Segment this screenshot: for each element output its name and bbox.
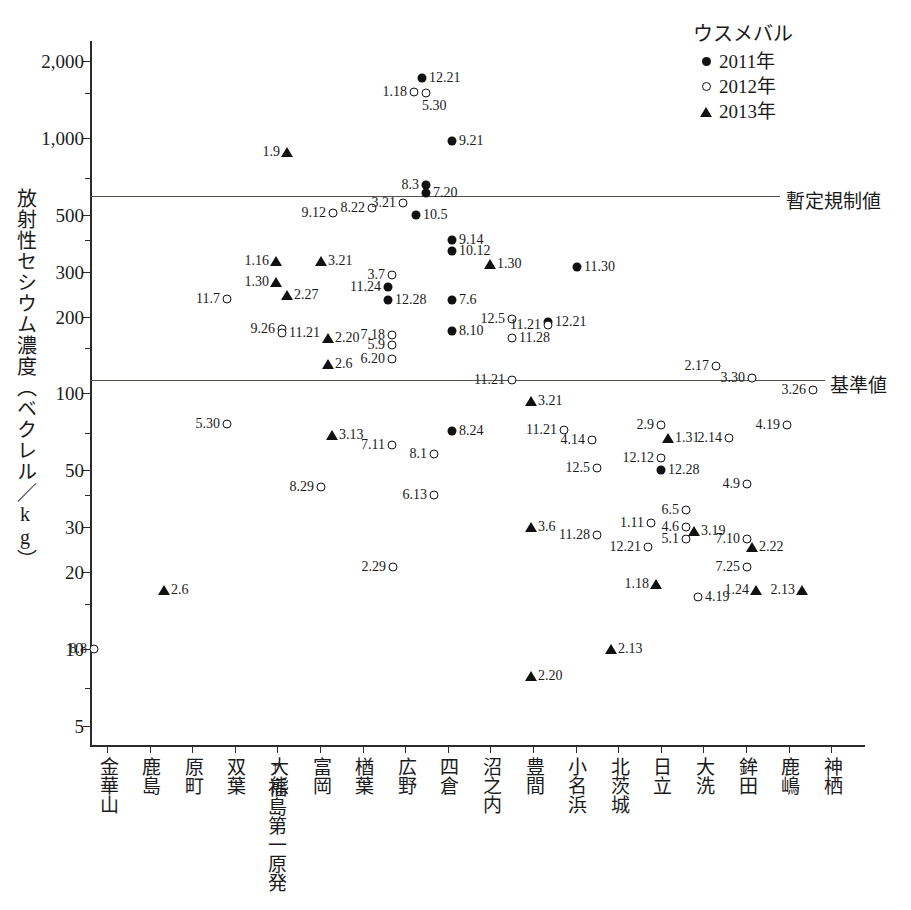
data-point-2012 (430, 491, 439, 500)
data-point-label: 8.8 (70, 642, 88, 656)
fukushima-daiichi-annotation: ↑福島第一原発 (265, 757, 286, 892)
data-point-2011 (448, 326, 457, 335)
data-point-2012 (544, 321, 553, 330)
data-point-2012 (657, 453, 666, 462)
data-point-2012 (588, 435, 597, 444)
data-point-label: 12.21 (610, 540, 642, 554)
data-point-2011 (448, 136, 457, 145)
y-minor-tick (85, 688, 90, 689)
data-point-label: 2.20 (335, 331, 360, 345)
data-point-2013 (281, 147, 293, 157)
data-point-label: 1.16 (245, 254, 270, 268)
x-tick (576, 745, 577, 753)
x-tick (831, 745, 832, 753)
data-point-label: 1.24 (725, 583, 750, 597)
y-tick-label: 20 (0, 563, 84, 582)
x-tick (618, 745, 619, 753)
y-tick (83, 138, 90, 139)
data-point-label: 1.18 (383, 85, 408, 99)
legend-entry-2011年: 2011年 (693, 49, 793, 74)
x-category-label-神栖: 神栖 (821, 757, 842, 795)
y-tick-label: 50 (0, 461, 84, 480)
data-point-2012 (410, 87, 419, 96)
data-point-label: 2.14 (698, 431, 723, 445)
data-point-2012 (388, 271, 397, 280)
x-tick (192, 745, 193, 753)
data-point-label: 2.13 (771, 583, 796, 597)
data-point-label: 1.30 (245, 275, 270, 289)
y-tick (83, 726, 90, 727)
data-point-label: 8.10 (459, 324, 484, 338)
data-point-2013 (525, 522, 537, 532)
data-point-label: 2.17 (685, 359, 710, 373)
x-category-label-大洗: 大洗 (693, 757, 714, 795)
y-minor-tick (85, 178, 90, 179)
x-category-label-広野: 広野 (395, 757, 416, 795)
data-point-2011 (573, 262, 582, 271)
data-point-2013 (322, 359, 334, 369)
data-point-2013 (326, 430, 338, 440)
x-category-label-鹿嶋: 鹿嶋 (779, 757, 800, 795)
data-point-label: 2.6 (171, 583, 189, 597)
data-point-label: 5.1 (662, 532, 680, 546)
x-tick (661, 745, 662, 753)
data-point-label: 2.29 (362, 560, 387, 574)
legend-title: ウスメバル (693, 22, 793, 47)
data-point-label: 11.30 (584, 260, 615, 274)
data-point-2012 (430, 449, 439, 458)
reference-line-standard-label: 基準値 (830, 370, 887, 397)
data-point-2013 (662, 433, 674, 443)
y-minor-tick (85, 240, 90, 241)
data-point-label: 3.30 (721, 371, 746, 385)
data-point-label: 3.26 (782, 383, 807, 397)
data-point-2012 (748, 373, 757, 382)
x-tick (277, 745, 278, 753)
x-category-label-沼之内: 沼之内 (480, 757, 501, 814)
y-tick (83, 470, 90, 471)
data-point-2012 (593, 464, 602, 473)
data-point-label: 7.10 (716, 532, 741, 546)
data-point-2012 (508, 375, 517, 384)
data-point-label: 10.5 (423, 208, 448, 222)
x-tick (490, 745, 491, 753)
legend-entry-2013年: 2013年 (693, 99, 793, 124)
data-point-2013 (650, 579, 662, 589)
data-point-label: 12.28 (395, 293, 427, 307)
data-point-2012 (329, 208, 338, 217)
y-minor-tick (85, 433, 90, 434)
data-point-label: 7.6 (459, 293, 477, 307)
data-point-label: 3.6 (538, 520, 556, 534)
data-point-2013 (315, 256, 327, 266)
y-tick (83, 572, 90, 573)
y-axis-line (90, 41, 92, 746)
data-point-2013 (158, 585, 170, 595)
data-point-label: 1.31 (675, 431, 700, 445)
data-point-label: 1.9 (263, 145, 281, 159)
data-point-2012 (682, 505, 691, 514)
y-tick (83, 393, 90, 394)
y-tick (83, 272, 90, 273)
data-point-label: 8.1 (410, 447, 428, 461)
data-point-label: 11.28 (519, 331, 550, 345)
data-point-label: 12.12 (623, 451, 655, 465)
data-point-2011 (657, 466, 666, 475)
y-tick-label: 2,000 (0, 52, 84, 71)
legend-entry-label: 2013年 (719, 99, 776, 124)
y-tick-label: 30 (0, 518, 84, 537)
data-point-2012 (317, 483, 326, 492)
y-tick (83, 317, 90, 318)
data-point-label: 3.21 (372, 196, 397, 210)
reference-line-standard (90, 380, 825, 381)
data-point-2012 (90, 644, 99, 653)
x-category-label-北茨城: 北茨城 (608, 757, 629, 814)
data-point-2012 (743, 562, 752, 571)
data-point-2013 (750, 585, 762, 595)
data-point-label: 4.9 (723, 477, 741, 491)
data-point-label: 3.7 (368, 268, 386, 282)
data-point-2012 (593, 530, 602, 539)
data-point-2012 (743, 480, 752, 489)
data-point-2011 (384, 283, 393, 292)
data-point-label: 11.21 (510, 318, 541, 332)
filled-circle-icon (693, 57, 719, 66)
data-point-2013 (270, 256, 282, 266)
